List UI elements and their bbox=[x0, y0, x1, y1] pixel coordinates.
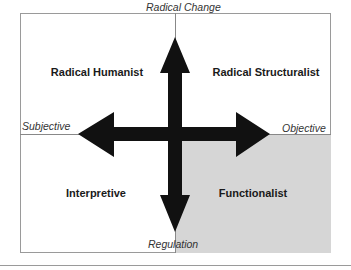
four-way-arrow-icon bbox=[0, 0, 351, 270]
axis-label-subjective: Subjective bbox=[22, 120, 70, 132]
axis-label-regulation: Regulation bbox=[148, 238, 198, 250]
quadrant-label-radical-humanist: Radical Humanist bbox=[51, 66, 143, 78]
quadrant-label-interpretive: Interpretive bbox=[66, 187, 126, 199]
axis-label-radical-change: Radical Change bbox=[146, 1, 221, 13]
quadrant-label-radical-structuralist: Radical Structuralist bbox=[213, 66, 320, 78]
bottom-rule-divider bbox=[0, 265, 351, 266]
quadrant-label-functionalist: Functionalist bbox=[219, 187, 287, 199]
axis-label-objective: Objective bbox=[282, 122, 326, 134]
